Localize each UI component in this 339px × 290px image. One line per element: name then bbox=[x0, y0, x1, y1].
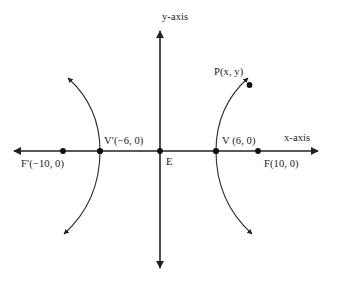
hyperbola-right-branch-lower bbox=[216, 151, 252, 234]
hyperbola-left-branch-lower bbox=[64, 151, 100, 234]
point-focus-right bbox=[255, 148, 261, 154]
point-focus-left bbox=[60, 148, 66, 154]
point-vertex-left bbox=[97, 148, 103, 154]
focus-right-label: F(10, 0) bbox=[264, 159, 299, 170]
vertex-left-label: V′(−6, 0) bbox=[104, 136, 143, 147]
figure-canvas bbox=[0, 0, 339, 290]
point-origin bbox=[157, 148, 163, 154]
focus-left-label: F′(−10, 0) bbox=[21, 159, 64, 170]
vertex-right-label: V (6, 0) bbox=[222, 136, 256, 147]
origin-label: E bbox=[166, 157, 173, 168]
point-vertex-right bbox=[213, 148, 219, 154]
x-axis-label: x-axis bbox=[284, 133, 310, 144]
hyperbola-figure: y-axis x-axis E V (6, 0) V′(−6, 0) F(10,… bbox=[0, 0, 339, 290]
point-p-label: P(x, y) bbox=[214, 67, 243, 78]
hyperbola-left-branch-upper bbox=[68, 78, 100, 151]
point-p bbox=[247, 82, 253, 88]
y-axis-label: y-axis bbox=[162, 12, 188, 23]
